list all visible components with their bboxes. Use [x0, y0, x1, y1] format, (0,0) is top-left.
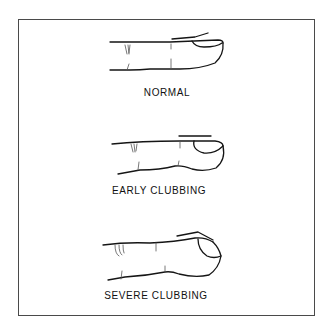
- label-normal: NORMAL: [144, 88, 190, 98]
- finger-early-clubbing-illustration: [100, 130, 235, 182]
- finger-normal-illustration: [100, 25, 235, 77]
- label-severe-clubbing: SEVERE CLUBBING: [104, 291, 207, 301]
- finger-severe-clubbing-illustration: [95, 228, 235, 286]
- label-early-clubbing: EARLY CLUBBING: [112, 186, 206, 196]
